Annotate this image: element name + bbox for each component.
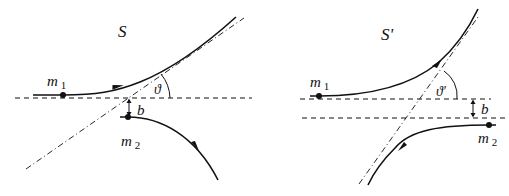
frame-label-s-prime: S': [381, 25, 394, 44]
angle-label: ϑ: [154, 82, 162, 97]
left-panel: S m1 ϑ b m2: [15, 17, 252, 180]
angle-arc: [161, 74, 170, 98]
impact-label: b: [481, 101, 489, 117]
mass2-dot: [486, 122, 492, 128]
angle-label: ϑ': [436, 84, 447, 99]
arrow-icon: [191, 141, 199, 151]
mass2-label: m2: [478, 130, 497, 148]
impact-label: b: [137, 102, 145, 118]
trajectory-m2: [368, 125, 496, 185]
right-panel: S' m1 ϑ' b m2: [300, 9, 506, 185]
arrow-down-icon: [471, 113, 476, 118]
mass1-dot: [60, 92, 66, 98]
mass2-label: m2: [121, 133, 140, 151]
angle-arc: [444, 71, 457, 99]
mass1-label: m1: [47, 73, 66, 91]
mass2-dot: [125, 114, 131, 120]
frame-label-s: S: [118, 22, 127, 41]
asymptote-line: [359, 17, 478, 184]
mass1-dot: [316, 93, 322, 99]
scattering-diagram: S m1 ϑ b m2 S' m1: [0, 0, 509, 196]
arrow-up-icon: [471, 100, 476, 105]
mass1-label: m1: [310, 74, 329, 92]
